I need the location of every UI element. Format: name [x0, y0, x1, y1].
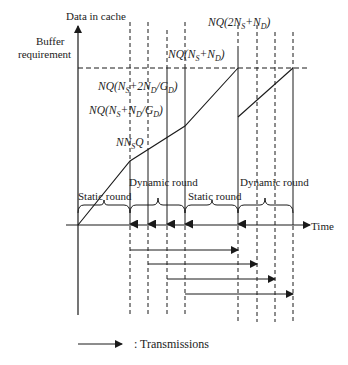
round-label-static-1: Static round: [78, 190, 132, 202]
round-label-static-2: Static round: [188, 190, 242, 202]
buffer-requirement-label-line1: Buffer: [36, 35, 65, 47]
annotation-nq-ns-2nd-gd: NQ(NS+2ND/GD): [97, 80, 178, 95]
round-label-dynamic-2: Dynamic round: [240, 176, 309, 188]
transmission-arrows: [130, 250, 293, 294]
cache-occupancy-curve-2: [238, 68, 293, 117]
vertical-markers: [130, 22, 293, 322]
y-axis-label: Data in cache: [66, 10, 126, 22]
annotation-nq-ns-nd: NQ(NS+ND): [167, 48, 225, 63]
x-axis-label: Time: [311, 220, 334, 232]
legend: : Transmissions: [78, 337, 209, 351]
annotation-nq-ns-nd-gd: NQ(NS+ND/GD): [88, 104, 163, 119]
annotation-nq-2ns-nd: NQ(2NS+ND): [207, 16, 270, 31]
buffer-requirement-label-line2: requirement: [18, 48, 71, 60]
cache-timing-diagram: Data in cache Buffer requirement Time: [0, 0, 348, 365]
round-label-dynamic-1: Dynamic round: [129, 176, 198, 188]
legend-label: : Transmissions: [134, 337, 209, 351]
